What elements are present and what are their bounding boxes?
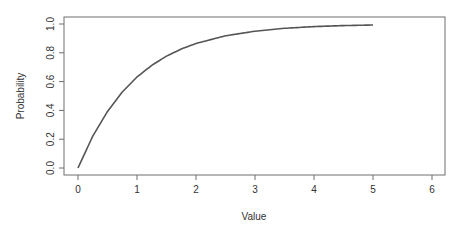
y-tick-label: 0.8: [45, 45, 56, 59]
x-tick-label: 1: [134, 184, 140, 195]
x-tick-label: 0: [75, 184, 81, 195]
plot-frame: [64, 17, 445, 175]
x-tick-label: 5: [370, 184, 376, 195]
x-tick-label: 2: [193, 184, 199, 195]
x-axis: 0123456: [75, 175, 435, 195]
x-tick-label: 4: [311, 184, 317, 195]
y-axis-title: Probability: [15, 73, 26, 120]
y-axis: 0.00.20.40.60.81.0: [45, 17, 64, 175]
x-tick-label: 3: [252, 184, 258, 195]
y-tick-label: 0.0: [45, 161, 56, 175]
y-tick-label: 0.4: [45, 103, 56, 117]
chart: 0123456 0.00.20.40.60.81.0 Value Probabi…: [0, 0, 458, 232]
y-tick-label: 0.6: [45, 74, 56, 88]
x-axis-title: Value: [242, 211, 267, 222]
series-layer: [78, 25, 373, 168]
x-tick-label: 6: [429, 184, 435, 195]
cdf-line: [78, 25, 373, 168]
y-tick-label: 1.0: [45, 17, 56, 31]
y-tick-label: 0.2: [45, 132, 56, 146]
